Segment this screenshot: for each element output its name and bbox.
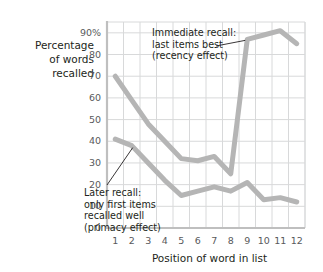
later-recall-annotation: Later recall:only first itemsrecalled we… bbox=[84, 187, 161, 233]
x-tick-label: 5 bbox=[173, 236, 189, 246]
later-recall-annotation-line: Later recall: bbox=[84, 187, 161, 199]
x-tick-label: 7 bbox=[206, 236, 222, 246]
x-tick-label: 11 bbox=[272, 236, 288, 246]
x-tick-label: 6 bbox=[190, 236, 206, 246]
x-axis-title: Position of word in list bbox=[107, 252, 312, 264]
x-tick-label: 4 bbox=[157, 236, 173, 246]
y-tick-label: 50 bbox=[71, 115, 101, 125]
y-tick-label: 40 bbox=[71, 136, 101, 146]
recall-position-chart: Percentageof wordsrecalled 0102030405060… bbox=[0, 0, 323, 272]
later-recall-annotation-line: recalled well bbox=[84, 210, 161, 222]
later-leader bbox=[107, 148, 133, 185]
x-tick-label: 2 bbox=[124, 236, 140, 246]
immediate-recall-annotation-line: Immediate recall: bbox=[152, 27, 236, 39]
y-tick-label: 30 bbox=[71, 158, 101, 168]
x-tick-label: 10 bbox=[256, 236, 272, 246]
y-tick-label: 80 bbox=[71, 50, 101, 60]
immediate-recall-annotation: Immediate recall:last items best(recency… bbox=[152, 27, 236, 62]
immediate-recall-annotation-line: last items best bbox=[152, 39, 236, 51]
immediate-recall-annotation-line: (recency effect) bbox=[152, 50, 236, 62]
y-tick-label: 60 bbox=[71, 93, 101, 103]
x-tick-label: 12 bbox=[289, 236, 305, 246]
y-tick-label: 70 bbox=[71, 71, 101, 81]
later-recall-annotation-line: (primacy effect) bbox=[84, 222, 161, 234]
later-recall-annotation-line: only first items bbox=[84, 199, 161, 211]
x-tick-label: 9 bbox=[239, 236, 255, 246]
x-tick-label: 8 bbox=[223, 236, 239, 246]
x-tick-label: 1 bbox=[107, 236, 123, 246]
y-tick-label: 90% bbox=[71, 28, 101, 38]
x-tick-label: 3 bbox=[140, 236, 156, 246]
